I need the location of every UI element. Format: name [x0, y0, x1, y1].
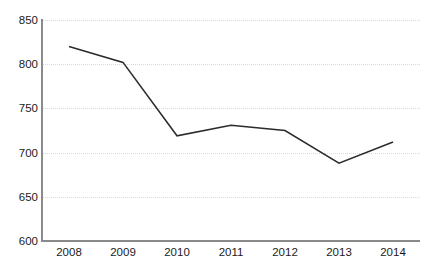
- y-tick-label-600: 600: [2, 235, 38, 247]
- x-tick-label-2008: 2008: [42, 246, 96, 259]
- y-tick-label-800: 800: [2, 58, 38, 70]
- y-axis-line: [41, 19, 43, 242]
- x-tick-label-2013: 2013: [312, 246, 366, 259]
- y-tick-label-650: 650: [2, 191, 38, 203]
- x-axis-line: [41, 240, 420, 242]
- y-tick-label-750: 750: [2, 102, 38, 114]
- x-tick-label-2012: 2012: [258, 246, 312, 259]
- series-layer: [42, 20, 420, 241]
- x-tick-label-2010: 2010: [150, 246, 204, 259]
- x-tick-label-2011: 2011: [204, 246, 258, 259]
- x-tick-label-2014: 2014: [366, 246, 420, 259]
- y-tick-label-850: 850: [2, 14, 38, 26]
- plot-area: [42, 20, 420, 241]
- y-tick-label-700: 700: [2, 147, 38, 159]
- x-tick-label-2009: 2009: [96, 246, 150, 259]
- line-chart: 600650700750800850 200820092010201120122…: [0, 0, 427, 271]
- series-line-primary: [69, 47, 393, 164]
